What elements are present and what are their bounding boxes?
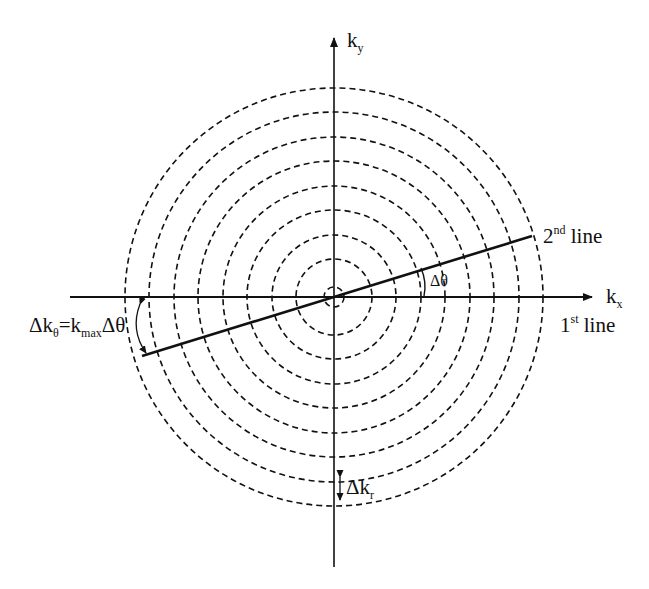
dkt-a: Δk <box>29 313 53 337</box>
second-line-sup: nd <box>554 223 566 237</box>
delta-theta-label: Δθ <box>430 272 448 290</box>
dkt-c: Δθ <box>102 313 126 337</box>
first-line-text: line <box>579 313 616 337</box>
kx-sub: x <box>617 297 623 311</box>
second-line-num: 2 <box>543 224 554 248</box>
ky-sub: y <box>358 41 364 55</box>
first-line-label: 1st line <box>560 313 615 338</box>
dkr-main: Δk <box>346 475 370 499</box>
delta-k-r-label: Δkr <box>346 475 374 500</box>
ky-main: k <box>347 28 358 52</box>
dkt-b-sub: max <box>81 326 102 340</box>
kx-label: kx <box>606 284 623 309</box>
delta-k-theta-label: Δkθ=kmaxΔθ <box>29 313 125 338</box>
dkt-a-sub: θ <box>53 326 59 340</box>
dkt-b: =k <box>59 313 81 337</box>
second-line-label: 2nd line <box>543 224 602 249</box>
dkr-sub: r <box>370 488 374 502</box>
first-line-sup: st <box>571 312 579 326</box>
second-line-text: line <box>566 224 603 248</box>
first-line-num: 1 <box>560 313 571 337</box>
delta-k-theta-arrow <box>136 304 146 353</box>
k-space-diagram <box>0 0 649 589</box>
ky-label: ky <box>347 28 364 53</box>
kx-main: k <box>606 284 617 308</box>
